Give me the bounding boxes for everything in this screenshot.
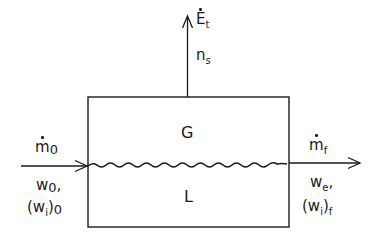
species-flux-label: ns bbox=[196, 48, 211, 63]
outlet-comma: , bbox=[328, 173, 333, 191]
outlet-wi-subscript: i bbox=[320, 206, 323, 217]
flux-subscript: s bbox=[206, 55, 211, 66]
gas-liquid-interface bbox=[88, 163, 287, 167]
liquid-region-label: L bbox=[184, 189, 193, 205]
inlet-w-subscript: 0 bbox=[48, 180, 56, 195]
inlet-composition-label: w0, bbox=[36, 178, 61, 193]
inlet-wi-subscript: i bbox=[45, 207, 48, 218]
outlet-wi-open: (w bbox=[302, 197, 320, 215]
control-volume-box bbox=[88, 97, 289, 227]
inlet-mass-symbol: m bbox=[35, 140, 50, 155]
inlet-mass-subscript: 0 bbox=[50, 142, 58, 157]
outlet-mass-subscript: f bbox=[324, 145, 328, 156]
outlet-wi-outer-subscript: f bbox=[329, 206, 333, 217]
outlet-mass-symbol: m bbox=[309, 138, 324, 153]
inlet-w-symbol: w bbox=[36, 176, 48, 194]
inlet-comma: , bbox=[57, 176, 62, 194]
energy-subscript: t bbox=[205, 19, 209, 30]
outlet-wi-close: ) bbox=[323, 197, 329, 215]
outlet-w-subscript: e bbox=[322, 182, 328, 193]
outlet-w-symbol: w bbox=[310, 173, 322, 191]
flux-symbol: n bbox=[196, 46, 206, 64]
inlet-wi-close: ) bbox=[48, 198, 54, 216]
inlet-wi-outer-subscript: 0 bbox=[54, 202, 62, 217]
inlet-species-composition-label: (wi)0 bbox=[27, 200, 62, 215]
outlet-species-composition-label: (wi)f bbox=[302, 199, 332, 214]
inlet-mass-flow-label: m0 bbox=[35, 140, 58, 155]
inlet-wi-open: (w bbox=[27, 198, 45, 216]
gas-region-label: G bbox=[181, 125, 193, 141]
outlet-composition-label: we, bbox=[310, 175, 333, 190]
outlet-mass-flow-label: mf bbox=[309, 138, 327, 153]
energy-rate-label: Et bbox=[196, 12, 209, 27]
